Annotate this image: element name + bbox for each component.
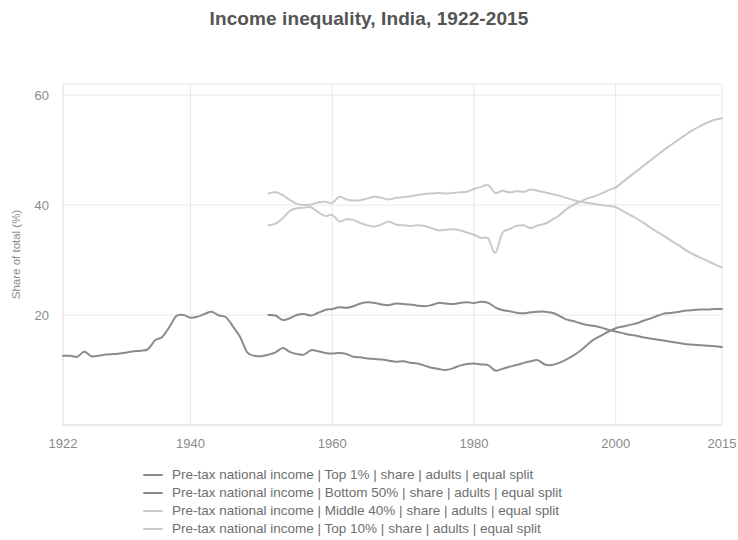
y-tick-label: 40 — [35, 198, 49, 213]
x-tick-label: 1940 — [176, 436, 205, 451]
chart-legend: Pre-tax national income | Top 1% | share… — [0, 466, 738, 538]
legend-item-top1[interactable]: Pre-tax national income | Top 1% | share… — [143, 466, 613, 484]
y-tick-label: 60 — [35, 88, 49, 103]
legend-label-middle40: Pre-tax national income | Middle 40% | s… — [172, 502, 559, 520]
legend-label-top10: Pre-tax national income | Top 10% | shar… — [172, 520, 541, 538]
legend-swatch-top1 — [143, 474, 163, 477]
plot-area: 204060192219401960198020002015Share of t… — [0, 0, 738, 460]
x-tick-label: 1960 — [318, 436, 347, 451]
series-line-top-10 — [268, 118, 722, 253]
legend-item-bottom50[interactable]: Pre-tax national income | Bottom 50% | s… — [143, 484, 613, 502]
legend-swatch-bottom50 — [143, 492, 163, 495]
chart-figure: Income inequality, India, 1922-2015 2040… — [0, 0, 738, 540]
legend-label-bottom50: Pre-tax national income | Bottom 50% | s… — [172, 484, 562, 502]
legend-item-top10[interactable]: Pre-tax national income | Top 10% | shar… — [143, 520, 613, 538]
legend-swatch-middle40 — [143, 510, 163, 513]
series-line-middle-40 — [268, 185, 722, 268]
legend-label-top1: Pre-tax national income | Top 1% | share… — [172, 466, 533, 484]
x-tick-label: 2015 — [708, 436, 737, 451]
x-tick-label: 2000 — [601, 436, 630, 451]
series-line-top-1 — [63, 309, 722, 371]
series-line-bottom-50 — [268, 302, 722, 347]
x-tick-label: 1980 — [460, 436, 489, 451]
x-tick-label: 1922 — [49, 436, 78, 451]
chart-svg: 204060192219401960198020002015Share of t… — [0, 0, 738, 460]
legend-swatch-top10 — [143, 528, 163, 531]
y-tick-label: 20 — [35, 308, 49, 323]
legend-item-middle40[interactable]: Pre-tax national income | Middle 40% | s… — [143, 502, 613, 520]
y-axis-label: Share of total (%) — [10, 210, 22, 300]
